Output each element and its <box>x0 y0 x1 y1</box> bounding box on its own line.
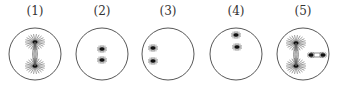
cell-2 <box>76 28 128 80</box>
cell-3 <box>142 28 194 80</box>
cell-diagrams <box>0 0 337 89</box>
